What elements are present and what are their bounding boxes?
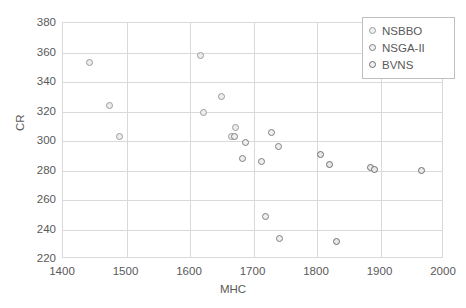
legend-item-label: NSGA-II [382,42,425,54]
legend-item[interactable]: NSBBO [369,22,449,39]
legend-item-label: NSBBO [382,25,422,37]
x-axis-tick-label: 1800 [286,265,346,277]
x-axis-tick-label: 1900 [350,265,410,277]
x-axis-tick-label: 2000 [413,265,466,277]
x-axis-tick-label: 1600 [159,265,219,277]
x-axis-tick-label: 1500 [96,265,156,277]
legend-item[interactable]: NSGA-II [369,39,449,56]
circle-icon [369,27,376,34]
y-axis-title: CR [14,114,26,131]
circle-icon [369,61,376,68]
x-axis-tick-label: 1700 [223,265,283,277]
x-axis-title: MHC [0,283,466,295]
circle-icon [369,44,376,51]
legend-item-label: BVNS [382,59,413,71]
legend-item[interactable]: BVNS [369,56,449,73]
scatter-chart: 220240260280300320340360380 140015001600… [0,0,466,308]
chart-legend: NSBBONSGA-IIBVNS [362,17,455,79]
x-axis-tick-label: 1400 [32,265,92,277]
